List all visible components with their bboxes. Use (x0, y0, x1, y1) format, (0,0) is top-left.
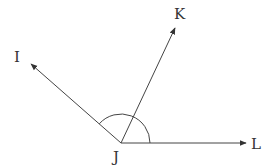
label-i: I (14, 48, 20, 66)
ray-ji (31, 64, 121, 143)
label-j: J (111, 148, 119, 165)
diagram-canvas: I K L J (0, 0, 274, 165)
angle-diagram: I K L J (0, 0, 274, 165)
label-k: K (174, 5, 186, 23)
angle-arc (99, 114, 150, 143)
label-l: L (251, 135, 261, 153)
ray-jk (121, 28, 175, 143)
